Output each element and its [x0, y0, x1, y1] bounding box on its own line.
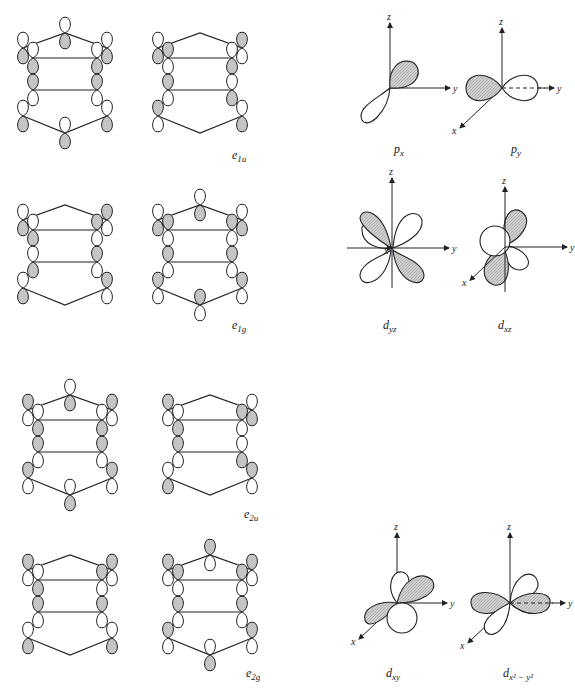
label-dxz: dxz [498, 318, 512, 334]
e2g-right [163, 539, 258, 671]
p-lobe [23, 554, 34, 570]
p-lobe [28, 246, 39, 262]
p-lobe [163, 410, 174, 426]
p-lobe [153, 220, 164, 236]
p-lobe [23, 462, 34, 478]
p-lobe [237, 48, 248, 64]
p-lobe [173, 436, 184, 452]
p-lobe [153, 48, 164, 64]
p-lobe [18, 288, 29, 304]
p-lobe [205, 539, 216, 555]
p-lobe [97, 612, 108, 628]
p-lobe [23, 570, 34, 586]
p-lobe [102, 116, 113, 132]
p-lobe [97, 452, 108, 468]
p-lobe [173, 420, 184, 436]
p-lobe [92, 246, 103, 262]
p-lobe [18, 204, 29, 220]
p-lobe [153, 116, 164, 132]
p-lobe [237, 272, 248, 288]
label-py: py [511, 142, 521, 158]
svg-text:y: y [567, 598, 573, 609]
p-lobe [92, 230, 103, 246]
p-lobe [247, 638, 258, 654]
p-lobe [107, 570, 118, 586]
svg-text:x: x [383, 245, 389, 256]
p-lobe [237, 116, 248, 132]
p-lobe [65, 395, 76, 411]
p-lobe [163, 74, 174, 90]
p-lobe [92, 42, 103, 58]
p-lobe [163, 262, 174, 278]
p-lobe [173, 564, 184, 580]
p-lobe [18, 220, 29, 236]
p-lobe [28, 262, 39, 278]
p-lobe [237, 596, 248, 612]
p-lobe [97, 404, 108, 420]
e1u-right [153, 32, 248, 133]
p-lobe [163, 58, 174, 74]
p-lobe [173, 580, 184, 596]
p-lobe [227, 262, 238, 278]
p-lobe [237, 580, 248, 596]
e2u-right [163, 394, 258, 495]
p-lobe [107, 478, 118, 494]
p-lobe [18, 100, 29, 116]
p-lobe [92, 262, 103, 278]
p-lobe [163, 638, 174, 654]
p-lobe [205, 639, 216, 655]
svg-text:z: z [388, 166, 393, 177]
svg-text:z: z [386, 11, 391, 22]
label-e2u: e2u [244, 507, 258, 523]
p-lobe [237, 32, 248, 48]
p-lobe [97, 436, 108, 452]
svg-text:z: z [393, 521, 398, 532]
orbital-dxz: zyx [461, 175, 575, 292]
p-lobe [60, 17, 71, 33]
p-lobe [163, 478, 174, 494]
p-lobe [153, 288, 164, 304]
orbital-dxy: zyx [350, 521, 455, 647]
p-lobe [227, 42, 238, 58]
svg-text:x: x [350, 636, 356, 647]
p-lobe [23, 410, 34, 426]
svg-text:y: y [556, 83, 562, 94]
p-lobe [33, 612, 44, 628]
p-lobe [28, 230, 39, 246]
p-lobe [97, 564, 108, 580]
p-lobe [28, 90, 39, 106]
p-lobe [102, 272, 113, 288]
e2g-left [23, 554, 118, 655]
p-lobe [227, 214, 238, 230]
p-lobe [247, 554, 258, 570]
svg-text:x: x [451, 125, 457, 136]
svg-text:y: y [451, 243, 457, 254]
p-lobe [92, 90, 103, 106]
p-lobe [163, 394, 174, 410]
p-lobe [33, 596, 44, 612]
p-lobe [163, 622, 174, 638]
svg-text:y: y [452, 83, 458, 94]
p-lobe [195, 189, 206, 205]
svg-text:x: x [461, 277, 467, 288]
p-lobe [28, 58, 39, 74]
p-lobe [102, 220, 113, 236]
p-lobe [97, 596, 108, 612]
p-lobe [102, 204, 113, 220]
p-lobe [60, 117, 71, 133]
p-lobe [18, 32, 29, 48]
label-dx2y2: dx² − y² [503, 666, 533, 682]
p-lobe [227, 90, 238, 106]
p-lobe [237, 452, 248, 468]
e1g-right [153, 189, 248, 321]
p-lobe [18, 116, 29, 132]
p-lobe [97, 420, 108, 436]
p-lobe [247, 410, 258, 426]
p-lobe [23, 638, 34, 654]
p-lobe [23, 394, 34, 410]
p-lobe [237, 220, 248, 236]
p-lobe [163, 42, 174, 58]
p-lobe [92, 58, 103, 74]
p-lobe [153, 272, 164, 288]
p-lobe [97, 580, 108, 596]
